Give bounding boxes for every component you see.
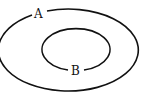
outer-set-boundary xyxy=(0,9,138,91)
outer-set-label: A xyxy=(33,7,43,21)
inner-set-label: B xyxy=(71,64,80,78)
nested-sets-diagram: A B xyxy=(0,0,151,94)
